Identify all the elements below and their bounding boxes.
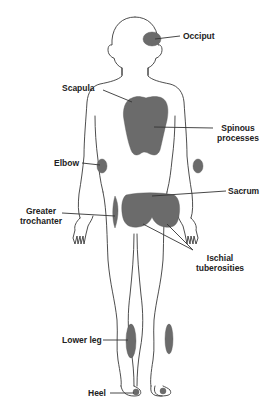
left-hand [73,216,93,244]
label-heel: Heel [88,388,106,398]
label-lower-leg: Lower leg [62,335,102,345]
label-spinous-line2: processes [210,133,266,143]
inner-right-leg [137,234,143,386]
label-greater-line2: trochanter [18,216,64,226]
left-elbow-area [97,159,107,173]
greater-trochanter-leader [62,213,115,216]
label-elbow: Elbow [54,158,79,168]
label-ischial-tuberosities: Ischial tuberosities [190,253,250,273]
right-elbow-area [193,159,203,173]
sacrum-area [122,193,180,227]
ischial-leader-right [167,224,193,250]
scapula-leader [103,90,132,102]
right-heel-area [160,388,166,394]
left-lower-leg-area [126,324,136,358]
label-scapula: Scapula [62,83,95,93]
label-sacrum: Sacrum [228,186,259,196]
scapula-spinous-area [123,97,168,155]
label-greater-trochanter: Greater trochanter [18,206,64,226]
label-ischial-line2: tuberosities [190,263,250,273]
label-occiput: Occiput [183,31,215,41]
label-ischial-line1: Ischial [190,253,250,263]
label-greater-line1: Greater [18,206,64,216]
left-inner-arm [95,116,103,192]
right-hand [178,216,198,244]
label-spinous-line1: Spinous [210,123,266,133]
greater-trochanter-area [113,196,118,228]
label-spinous-processes: Spinous processes [210,123,266,143]
inner-left-leg [128,234,134,386]
right-lower-leg-area [165,324,173,354]
left-heel-area [133,389,139,395]
